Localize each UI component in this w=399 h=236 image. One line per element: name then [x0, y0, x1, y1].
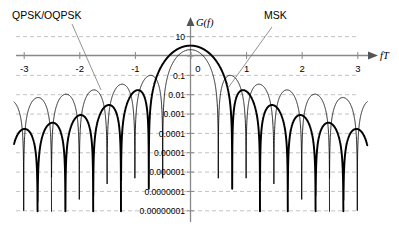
msk-label: MSK — [264, 9, 287, 21]
y-tick-label: 0.1 — [173, 71, 185, 81]
x-axis-name: fT — [380, 50, 390, 61]
qpsk-oqpsk-label: QPSK/OQPSK — [12, 9, 81, 21]
y-tick-label: 10 — [175, 32, 185, 42]
y-tick-label: 0.00000001 — [140, 206, 186, 216]
x-tick-label: 0 — [195, 63, 200, 74]
x-tick-label: 3 — [355, 63, 360, 74]
y-tick-label: 0.01 — [168, 90, 185, 100]
y-tick-label: 0.00001 — [154, 148, 185, 158]
x-tick-label: 2 — [300, 63, 305, 74]
y-tick-label: 0.000001 — [149, 167, 185, 177]
x-tick-label: -2 — [76, 63, 84, 74]
y-tick-label: 0.0000001 — [144, 187, 185, 197]
y-axis-name: G(f) — [196, 17, 214, 29]
x-tick-label: -3 — [20, 63, 28, 74]
x-tick-label: -1 — [131, 63, 139, 74]
chart-background — [0, 0, 399, 236]
y-tick-label: 0.001 — [163, 109, 185, 119]
spectrum-chart: -3-2-10123 100.10.010.0010.00010.000010.… — [0, 0, 399, 236]
